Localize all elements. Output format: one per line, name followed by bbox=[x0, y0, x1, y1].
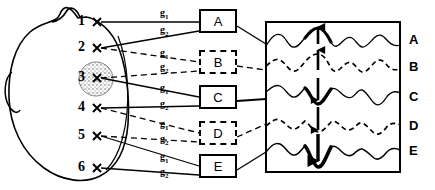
lead-3-to-C-g1 bbox=[101, 78, 199, 97]
electrode-label-1: 1 bbox=[78, 14, 85, 28]
input-label-E-g1: g1 bbox=[160, 152, 169, 165]
lead-4-to-C-g2 bbox=[101, 106, 199, 108]
amplifier-box-A[interactable]: A bbox=[199, 9, 237, 33]
g1-subscript: 1 bbox=[165, 53, 169, 61]
amplifier-label-D: D bbox=[213, 126, 222, 141]
trace-label-E: E bbox=[409, 144, 418, 157]
input-label-C-g1: g1 bbox=[160, 83, 169, 96]
lead-E-to-trace bbox=[237, 152, 266, 170]
trace-label-B: B bbox=[409, 60, 418, 73]
g2-subscript: 2 bbox=[165, 30, 169, 38]
amplifier-input-leads bbox=[101, 22, 199, 175]
lead-D-to-trace bbox=[237, 124, 266, 137]
lead-4-to-D-g1 bbox=[101, 108, 199, 133]
input-label-A-g1: g1 bbox=[160, 8, 169, 21]
scalp-inner-line bbox=[106, 36, 128, 170]
amplifier-label-E: E bbox=[214, 159, 223, 174]
amplifier-label-B: B bbox=[214, 55, 223, 70]
head-contour bbox=[9, 8, 129, 181]
lead-6-to-E-g2 bbox=[101, 168, 199, 175]
amplifier-box-E[interactable]: E bbox=[199, 154, 237, 178]
electrode-marker-4 bbox=[93, 104, 101, 112]
amplifier-box-C[interactable]: C bbox=[199, 85, 237, 109]
figure-root: 1 2 3 4 5 6 g1 g2 g1 g2 g1 g2 g1 g2 g1 g… bbox=[0, 0, 435, 190]
g1-subscript: 1 bbox=[165, 13, 169, 21]
electrode-marker-6 bbox=[93, 164, 101, 172]
lead-2-to-B-g1 bbox=[101, 48, 199, 62]
lead-B-to-trace bbox=[237, 66, 266, 70]
input-label-E-g2: g2 bbox=[160, 167, 169, 180]
input-label-D-g2: g2 bbox=[160, 134, 169, 147]
input-label-B-g2: g2 bbox=[160, 62, 169, 75]
trace-label-D: D bbox=[409, 119, 418, 132]
electrode-marker-1 bbox=[93, 18, 101, 26]
g2-subscript: 2 bbox=[165, 172, 169, 180]
input-label-A-g2: g2 bbox=[160, 25, 169, 38]
g1-subscript: 1 bbox=[165, 124, 169, 132]
electrode-marker-5 bbox=[93, 132, 101, 140]
g1-subscript: 1 bbox=[165, 157, 169, 165]
lead-2-to-A-g2 bbox=[101, 31, 199, 48]
electrode-label-5: 5 bbox=[78, 128, 85, 142]
amplifier-label-A: A bbox=[214, 14, 223, 29]
input-label-D-g1: g1 bbox=[160, 119, 169, 132]
head-outline bbox=[5, 8, 128, 181]
lead-A-to-trace bbox=[237, 26, 266, 44]
amplifier-box-D[interactable]: D bbox=[199, 121, 237, 145]
electrode-label-6: 6 bbox=[78, 160, 85, 174]
input-label-C-g2: g2 bbox=[160, 99, 169, 112]
input-label-B-g1: g1 bbox=[160, 48, 169, 61]
amplifier-label-C: C bbox=[213, 90, 222, 105]
ear-outline bbox=[5, 72, 20, 112]
trace-label-A: A bbox=[409, 33, 418, 46]
electrode-label-3: 3 bbox=[78, 70, 85, 84]
g2-subscript: 2 bbox=[165, 67, 169, 75]
electrode-label-4: 4 bbox=[78, 100, 85, 114]
g2-subscript: 2 bbox=[165, 139, 169, 147]
lead-3-to-B-g2 bbox=[101, 71, 199, 78]
g1-subscript: 1 bbox=[165, 88, 169, 96]
g2-subscript: 2 bbox=[165, 104, 169, 112]
amplifier-box-B[interactable]: B bbox=[199, 50, 237, 74]
lead-C-to-trace bbox=[237, 99, 266, 101]
trace-label-C: C bbox=[409, 90, 418, 103]
amplifier-output-leads bbox=[237, 26, 266, 170]
electrode-label-2: 2 bbox=[78, 40, 85, 54]
electrode-marker-2 bbox=[93, 44, 101, 52]
